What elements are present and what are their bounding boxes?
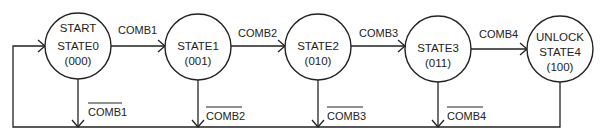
return-arrow-s2 <box>312 79 324 127</box>
svg-text:(100): (100) <box>547 61 574 73</box>
svg-text:(011): (011) <box>425 57 451 69</box>
return-arrow-s3 <box>432 79 444 127</box>
transition-s3-s4: COMB4 <box>471 28 527 55</box>
state-diagram: COMB1 COMB2 COMB3 COMB4 COMB1 COMB2 COMB… <box>0 0 608 138</box>
transition-s2-s3: COMB3 <box>351 27 405 52</box>
label-not-comb3: COMB3 <box>327 107 366 122</box>
svg-text:(001): (001) <box>185 55 212 67</box>
svg-text:STATE4: STATE4 <box>539 46 581 58</box>
label-not-comb2: COMB2 <box>206 107 245 122</box>
state-s3: STATE3 (011) <box>405 16 471 82</box>
transition-s0-s1: COMB1 <box>111 24 165 52</box>
svg-text:UNLOCK: UNLOCK <box>536 31 584 43</box>
svg-text:STATE2: STATE2 <box>297 40 339 52</box>
svg-text:COMB4: COMB4 <box>447 110 486 122</box>
transition-s1-s2: COMB2 <box>231 27 285 52</box>
svg-text:STATE0: STATE0 <box>57 40 99 52</box>
state-s0: START STATE0 (000) <box>45 13 111 79</box>
state-s1: STATE1 (001) <box>165 14 231 80</box>
svg-text:COMB4: COMB4 <box>479 28 518 40</box>
svg-text:START: START <box>60 22 97 34</box>
state-s2: STATE2 (010) <box>285 14 351 80</box>
label-not-comb1: COMB1 <box>88 103 127 118</box>
label-not-comb4: COMB4 <box>447 107 486 122</box>
return-arrow-s0 <box>72 79 84 127</box>
svg-text:STATE3: STATE3 <box>417 42 459 54</box>
svg-text:(010): (010) <box>305 55 332 67</box>
svg-text:COMB1: COMB1 <box>88 106 127 118</box>
svg-text:COMB3: COMB3 <box>327 110 366 122</box>
svg-text:COMB2: COMB2 <box>238 27 277 39</box>
svg-text:STATE1: STATE1 <box>177 40 219 52</box>
return-arrow-s1 <box>192 79 204 127</box>
svg-text:COMB2: COMB2 <box>206 110 245 122</box>
svg-text:COMB3: COMB3 <box>359 27 398 39</box>
state-s4: UNLOCK STATE4 (100) <box>527 16 593 82</box>
svg-text:(000): (000) <box>65 55 92 67</box>
svg-text:COMB1: COMB1 <box>118 24 157 36</box>
